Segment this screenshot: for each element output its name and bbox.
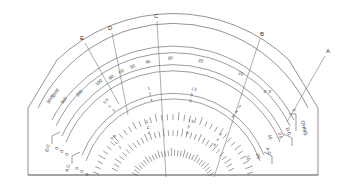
dc-label-left: D.C	[44, 143, 51, 152]
callout-labels: E D C B A	[80, 13, 330, 54]
scale-plate-figure: 3000 1000 500 200 100 80 60 50 40 30 20 …	[0, 0, 346, 193]
ohms-label: 30	[167, 55, 173, 61]
mult-value: 1.5	[188, 118, 195, 124]
upper-voltage-end-left: D.C 0 0 0	[44, 132, 70, 156]
ac-end-value: 10	[245, 155, 251, 162]
ac-label-right: A.C	[265, 147, 272, 156]
mult-value: 2	[146, 124, 150, 129]
dc-zero: 0	[64, 152, 70, 156]
mult-value: 8	[213, 142, 218, 148]
ac-end-value: 25	[255, 153, 261, 160]
mult-value: 3	[187, 124, 191, 129]
upper-voltage-ticks	[112, 129, 234, 171]
ohms-scale-labels: 3000 1000 500 200 100 80 60 50 40 30 20 …	[46, 55, 297, 113]
mult-value: 6	[186, 130, 190, 135]
ac-label-left: A.C	[64, 163, 71, 172]
mult-value: 2	[117, 144, 123, 150]
ohms-label: 10	[238, 70, 245, 77]
callout-label-C: C	[154, 13, 159, 19]
ohms-label: 100	[94, 78, 103, 87]
mult-value: 4	[147, 130, 151, 135]
mult-value: 1.5	[191, 86, 198, 92]
lower-voltage-ticks	[132, 148, 213, 176]
ohms-label: 200	[75, 88, 84, 97]
dc-end-value: 2.5	[277, 132, 284, 140]
ohms-label: 50	[129, 63, 136, 70]
callout-lines	[85, 21, 325, 177]
lower-voltage-scale-arc	[82, 93, 264, 161]
ohms-label: 1000	[51, 87, 61, 99]
ohms-label: 40	[145, 58, 152, 65]
callout-label-E: E	[80, 35, 84, 41]
callout-label-D: D	[108, 25, 113, 31]
ac-zero: 0	[84, 172, 90, 176]
mult-value: 0.8	[109, 133, 117, 141]
lower-voltage-end-right: A.C 10 25	[245, 147, 272, 164]
plate-outline	[28, 14, 318, 175]
mult-value: 0.5	[102, 97, 110, 105]
ohms-label: 0	[291, 108, 297, 113]
ohms-unit-label: OHMS	[300, 120, 309, 137]
ohms-label: 20	[198, 58, 204, 64]
callout-label-A: A	[326, 48, 330, 54]
mult-value: 1	[145, 119, 149, 124]
callout-line-B	[214, 39, 260, 177]
meter-scale-drawing: 3000 1000 500 200 100 80 60 50 40 30 20 …	[0, 0, 346, 193]
dc-end-value: 10	[267, 134, 273, 141]
callout-label-B: B	[260, 31, 264, 37]
mult-value: 1	[147, 85, 151, 91]
upper-voltage-end-right: D.C 10 2.5	[267, 127, 292, 146]
